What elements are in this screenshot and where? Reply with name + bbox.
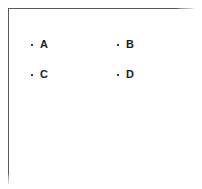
- list-item-label: B: [126, 39, 134, 50]
- list-item-label: D: [126, 69, 134, 80]
- bullet-dot-icon: [31, 44, 33, 46]
- bulleted-list: A B C D: [31, 29, 191, 89]
- bullet-dot-icon: [117, 44, 119, 46]
- content-area: A B C D: [9, 9, 202, 189]
- list-item[interactable]: C: [31, 69, 117, 80]
- list-item-label: A: [40, 39, 48, 50]
- list-item-label: C: [40, 69, 48, 80]
- list-item[interactable]: A: [31, 39, 117, 50]
- document-canvas: A B C D: [0, 0, 202, 189]
- bullet-dot-icon: [117, 74, 119, 76]
- list-item[interactable]: B: [117, 39, 191, 50]
- list-item[interactable]: D: [117, 69, 191, 80]
- bullet-dot-icon: [31, 74, 33, 76]
